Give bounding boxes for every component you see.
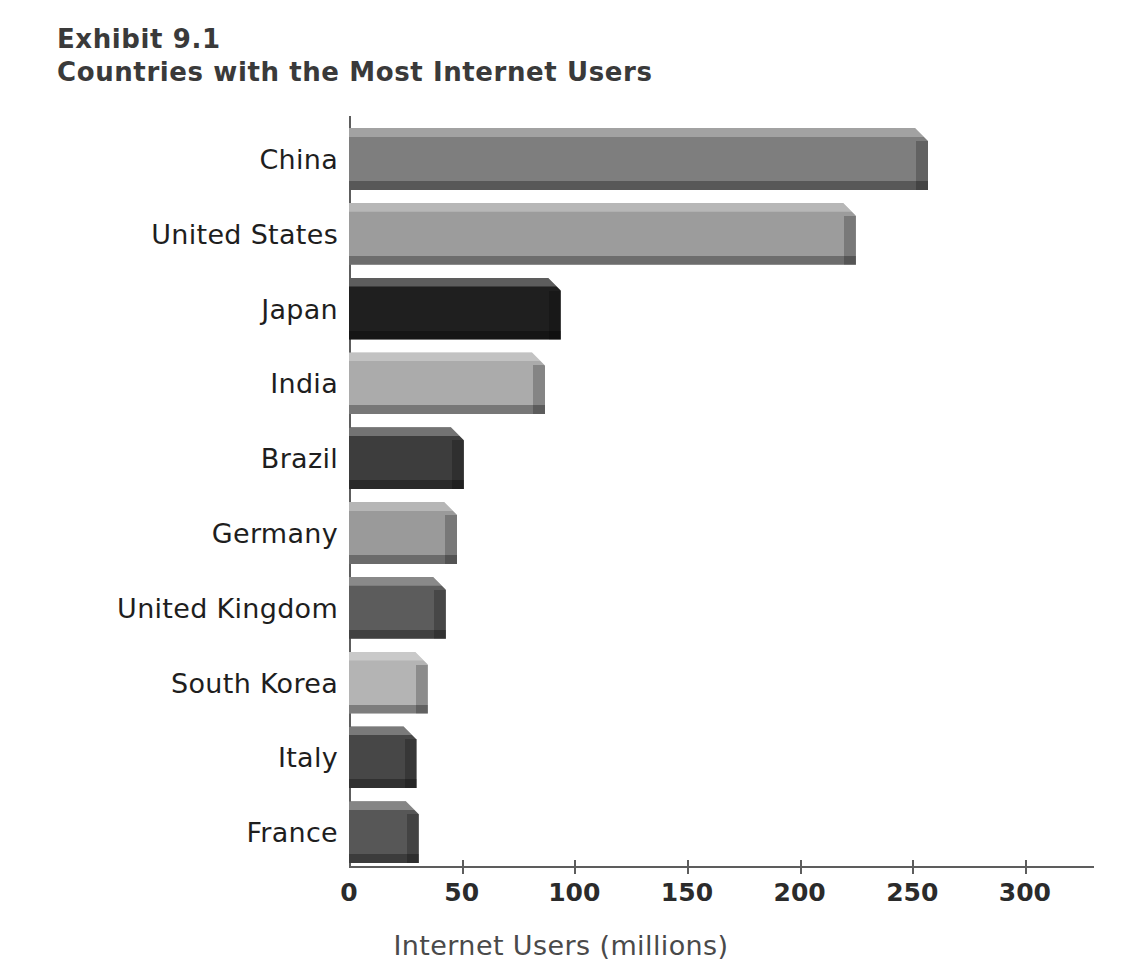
x-tick-label-50: 50 xyxy=(444,878,479,907)
bar-top-bevel xyxy=(349,726,417,735)
bar-bottom-bevel xyxy=(349,555,457,564)
category-label-italy: Italy xyxy=(278,742,338,773)
bar-face xyxy=(349,203,856,265)
bar-right-bevel xyxy=(549,291,561,340)
bar-face xyxy=(349,652,428,714)
bar-japan xyxy=(349,278,561,340)
x-tick-label-250: 250 xyxy=(886,878,938,907)
bar-right-bevel xyxy=(407,814,419,863)
bar-india xyxy=(349,352,545,414)
bar-top-bevel xyxy=(349,801,419,810)
bar-right-bevel xyxy=(416,665,428,714)
x-tick-label-150: 150 xyxy=(661,878,713,907)
bar-top-bevel xyxy=(349,577,446,586)
chart-canvas: Exhibit 9.1 Countries with the Most Inte… xyxy=(0,0,1122,980)
bar-top-bevel xyxy=(349,278,561,287)
x-tick-200 xyxy=(800,860,802,874)
bar-right-bevel xyxy=(434,590,446,639)
bar-right-bevel xyxy=(916,141,928,190)
bar-brazil xyxy=(349,427,464,489)
bar-top-bevel xyxy=(349,502,457,511)
bar-france xyxy=(349,801,419,863)
bar-face xyxy=(349,278,561,340)
x-tick-50 xyxy=(462,860,464,874)
plot-area: ChinaUnited StatesJapanIndiaBrazilGerman… xyxy=(0,0,1122,980)
bar-right-bevel xyxy=(405,739,417,788)
bar-south-korea xyxy=(349,652,428,714)
category-label-brazil: Brazil xyxy=(261,443,338,474)
x-tick-300 xyxy=(1025,860,1027,874)
bar-face xyxy=(349,427,464,489)
bar-face xyxy=(349,801,419,863)
category-label-india: India xyxy=(270,368,338,399)
x-tick-150 xyxy=(687,860,689,874)
bar-united-states xyxy=(349,203,856,265)
category-label-china: China xyxy=(259,144,338,175)
bar-bottom-bevel xyxy=(349,331,561,340)
x-tick-100 xyxy=(574,860,576,874)
bar-germany xyxy=(349,502,457,564)
bar-face xyxy=(349,577,446,639)
category-label-south-korea: South Korea xyxy=(171,667,338,698)
bar-right-bevel xyxy=(452,440,464,489)
x-tick-250 xyxy=(912,860,914,874)
bar-bottom-bevel xyxy=(349,181,928,190)
bar-face xyxy=(349,502,457,564)
bar-top-bevel xyxy=(349,427,464,436)
bar-italy xyxy=(349,726,417,788)
bar-bottom-bevel xyxy=(349,405,545,414)
bar-top-bevel xyxy=(349,203,856,212)
bar-top-bevel xyxy=(349,128,928,137)
bar-right-bevel xyxy=(533,365,545,414)
x-tick-label-0: 0 xyxy=(340,878,357,907)
bar-right-bevel xyxy=(844,216,856,265)
bar-china xyxy=(349,128,928,190)
x-tick-label-300: 300 xyxy=(999,878,1051,907)
bar-top-bevel xyxy=(349,352,545,361)
bar-right-bevel xyxy=(445,515,457,564)
bar-bottom-bevel xyxy=(349,480,464,489)
category-label-united-kingdom: United Kingdom xyxy=(117,592,338,623)
bar-face xyxy=(349,726,417,788)
x-tick-label-200: 200 xyxy=(774,878,826,907)
bar-united-kingdom xyxy=(349,577,446,639)
x-tick-label-100: 100 xyxy=(548,878,600,907)
category-label-germany: Germany xyxy=(212,518,338,549)
bar-face xyxy=(349,128,928,190)
category-label-japan: Japan xyxy=(261,293,338,324)
bar-bottom-bevel xyxy=(349,256,856,265)
x-axis-title: Internet Users (millions) xyxy=(0,930,1122,961)
bar-top-bevel xyxy=(349,652,428,661)
category-label-united-states: United States xyxy=(151,218,338,249)
bar-face xyxy=(349,352,545,414)
category-label-france: France xyxy=(246,817,338,848)
bar-bottom-bevel xyxy=(349,630,446,639)
